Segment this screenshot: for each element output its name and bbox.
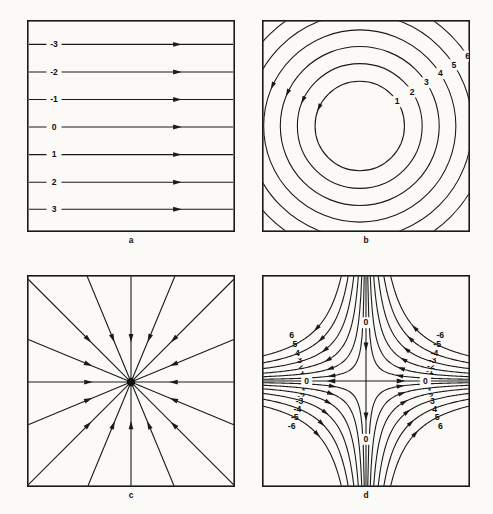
stagnation-node: [127, 378, 135, 386]
flow-arrow-icon: [327, 379, 336, 384]
flow-arrow-icon: [147, 421, 152, 430]
contour-label: 4: [438, 68, 443, 78]
contour-1: [315, 81, 404, 170]
contour-label: 2: [410, 87, 415, 97]
flow-arrow-icon: [396, 385, 404, 389]
flow-arrow-icon: [403, 347, 410, 353]
contour-6: [231, 0, 488, 255]
hyperbola-top-left-4: [257, 270, 355, 370]
flow-arrow-icon: [317, 103, 322, 111]
flow-arrow-icon: [364, 412, 369, 421]
flow-arrow-icon: [173, 125, 182, 130]
flow-arrow-icon: [321, 409, 328, 415]
flow-arrow-icon: [109, 421, 114, 430]
axis-zero-label: 0: [364, 434, 369, 444]
radial-spoke: [28, 382, 131, 485]
hyperbola-label: 6: [289, 330, 294, 340]
flow-field-figure: a-3-2-10123b123456cd123456-1-2-3-4-5-6-1…: [0, 0, 493, 514]
contour-label: 5: [452, 60, 457, 70]
flow-arrow-icon: [286, 89, 291, 97]
contour-5: [247, 14, 472, 239]
flow-arrow-icon: [173, 180, 182, 185]
hyperbola-bottom-right-6: [389, 405, 475, 493]
flow-arrow-icon: [398, 392, 406, 397]
flow-arrow-icon: [129, 334, 134, 343]
flow-arrow-icon: [271, 82, 276, 90]
streamline-label: -2: [50, 67, 58, 77]
flow-arrow-icon: [84, 380, 93, 385]
axis-zero-label: 0: [304, 376, 309, 386]
flow-arrow-icon: [169, 380, 178, 385]
streamline-label: -1: [50, 94, 58, 104]
vortex-contours: 123456: [231, 0, 488, 255]
flow-arrow-icon: [397, 367, 405, 372]
hyperbola-bottom-right-4: [377, 393, 475, 493]
flow-arrow-icon: [328, 373, 336, 377]
contour-2: [297, 64, 422, 189]
uniform-flow-panel: a-3-2-10123: [28, 21, 234, 245]
panel-caption-d: d: [363, 490, 368, 500]
hyperbola-label: 6: [438, 421, 443, 431]
panel-frame-b: [263, 21, 469, 231]
flow-arrow-icon: [173, 42, 182, 47]
panel-caption-a: a: [129, 235, 134, 245]
flow-arrow-icon: [324, 399, 332, 405]
flow-arrow-icon: [397, 379, 406, 384]
radial-spoke: [131, 382, 234, 485]
streamline-label: 3: [52, 204, 57, 214]
hyperbola-top-left-6: [257, 270, 343, 358]
hyperbola-label: -6: [288, 421, 296, 431]
streamline-label: 1: [52, 149, 57, 159]
flow-arrow-icon: [173, 69, 182, 74]
hyperbola-top-left-5: [257, 270, 349, 364]
contour-3: [280, 47, 439, 206]
flow-arrow-icon: [173, 207, 182, 212]
axis-zero-label: 0: [423, 376, 428, 386]
radial-spoke: [28, 279, 131, 382]
hyperbola-bottom-right-1: [368, 383, 476, 493]
streamline-label: 2: [52, 177, 57, 187]
flow-arrow-icon: [173, 152, 182, 157]
flow-arrow-icon: [400, 400, 408, 406]
saddle-contours: 123456-1-2-3-4-5-6-1-2-3-4-5-61234560000: [257, 270, 475, 493]
flow-arrow-icon: [129, 421, 134, 430]
hyperbola-top-right--3: [373, 270, 475, 374]
hyperbola-bottom-right-5: [383, 398, 475, 492]
contour-4: [264, 30, 456, 222]
flow-arrow-icon: [327, 390, 335, 395]
panel-caption-b: b: [363, 235, 368, 245]
hyperbola-bottom-left--3: [257, 388, 359, 492]
flow-arrow-icon: [148, 333, 153, 342]
streamline-label: -3: [50, 39, 58, 49]
flow-arrow-icon: [109, 333, 114, 342]
flow-arrow-icon: [170, 398, 179, 403]
flow-arrow-icon: [326, 365, 334, 370]
hyperbola-bottom-left--1: [257, 383, 365, 493]
axis-zero-label: 0: [364, 317, 369, 327]
hyperbola-bottom-right-3: [373, 388, 475, 492]
circular-vortex-panel: b123456: [231, 0, 488, 255]
flow-arrow-icon: [364, 342, 369, 351]
contour-label: 3: [424, 77, 429, 87]
panel-caption-c: c: [129, 490, 134, 500]
flow-arrow-icon: [84, 398, 93, 403]
flow-arrow-icon: [84, 361, 93, 366]
flow-arrow-icon: [301, 96, 306, 104]
hyperbola-top-left-1: [257, 270, 365, 380]
hyperbola-top-left-3: [257, 270, 359, 374]
streamline-label: 0: [52, 122, 57, 132]
radial-spoke: [131, 279, 234, 382]
flow-arrow-icon: [170, 361, 179, 366]
flow-arrow-icon: [324, 356, 332, 362]
saddle-flow-panel: d123456-1-2-3-4-5-6-1-2-3-4-5-6123456000…: [257, 270, 475, 500]
flow-arrow-icon: [400, 358, 408, 364]
flow-arrow-icon: [173, 97, 182, 102]
hyperbola-label: -6: [436, 330, 444, 340]
hyperbola-bottom-left--4: [257, 393, 355, 493]
radial-sink-panel: c: [28, 276, 234, 500]
hyperbola-top-right--4: [377, 270, 475, 370]
hyperbola-top-right--1: [368, 270, 476, 380]
contour-label: 1: [395, 96, 400, 106]
